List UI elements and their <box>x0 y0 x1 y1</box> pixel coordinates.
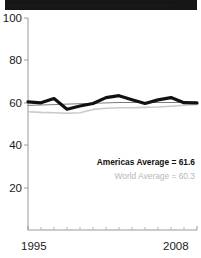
annotation-americas-average: Americas Average = 61.6 <box>97 157 196 167</box>
annotation-world-average: World Average = 60.3 <box>115 171 196 181</box>
y-tick-label-20: 20 <box>9 182 22 194</box>
series-world-average <box>28 105 197 114</box>
y-tick-label-60: 60 <box>9 97 22 109</box>
x-tick-label-end: 2008 <box>163 240 189 252</box>
chart-figure: ——————————————————————— 100 80 60 40 20 <box>0 0 201 258</box>
x-tick-marks <box>28 226 197 230</box>
y-tick-label-80: 80 <box>9 54 22 66</box>
title-band-text: ——————————————————————— <box>5 0 197 10</box>
x-tick-label-start: 1995 <box>21 240 47 252</box>
title-band: ——————————————————————— <box>5 0 197 10</box>
y-tick-label-40: 40 <box>9 139 22 151</box>
series-americas-trend <box>28 103 197 106</box>
line-chart: 100 80 60 40 20 1995 2008 <box>0 10 201 258</box>
y-tick-label-100: 100 <box>3 12 22 24</box>
